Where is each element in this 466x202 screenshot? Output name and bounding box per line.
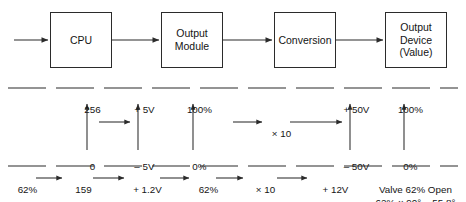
scale-top-voltage-high: + 50V (333, 93, 370, 126)
example-input-percent: 62% (7, 173, 38, 202)
example-percent: 62% (188, 173, 219, 202)
diagram-canvas: CPU Output Module Conversion Output Devi… (0, 0, 466, 202)
scale-top-percent: 100% (176, 93, 212, 126)
example-voltage-high: + 12V (312, 173, 349, 202)
gain-label-middle: × 10 (261, 117, 291, 150)
example-count: 159 (64, 173, 91, 202)
scale-top-voltage-low: + 5V (123, 93, 154, 126)
example-gain: × 10 (245, 173, 275, 202)
result-line-2: 62% × 90° = 55.8° (365, 186, 456, 202)
scale-top-count: 256 (73, 93, 100, 126)
scale-top-percent-out: 100% (387, 93, 423, 126)
example-voltage-low: + 1.2V (122, 173, 162, 202)
